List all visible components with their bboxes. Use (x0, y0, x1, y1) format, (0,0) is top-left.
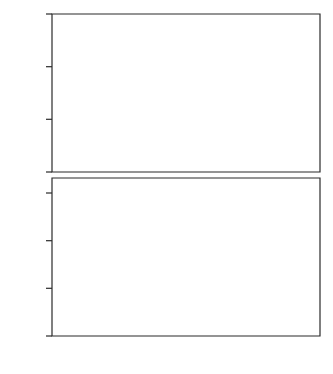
figure-canvas (0, 0, 333, 374)
histogram-figure (0, 0, 333, 374)
top-panel-frame (52, 14, 320, 172)
bottom-panel (46, 178, 320, 336)
top-panel (46, 14, 320, 172)
top-panel-yticks (46, 14, 52, 172)
bottom-panel-yticks (46, 193, 52, 336)
bottom-panel-frame (52, 178, 320, 336)
